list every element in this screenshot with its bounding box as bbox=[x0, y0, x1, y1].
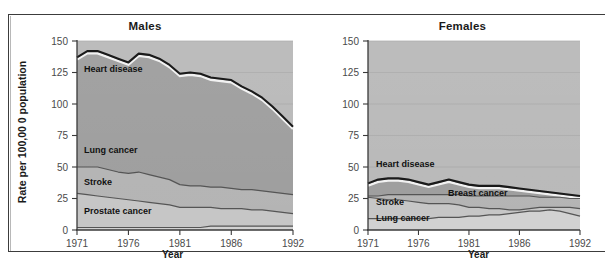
y-tick-label: 125 bbox=[51, 67, 68, 78]
x-tick-label: 1971 bbox=[357, 238, 380, 249]
y-tick-label: 50 bbox=[348, 162, 360, 173]
y-tick-label: 75 bbox=[57, 130, 69, 141]
x-axis-title-females: Year bbox=[468, 249, 489, 260]
y-tick-label: 100 bbox=[342, 99, 359, 110]
figure: Males Rate per 100,00 0 population 02550… bbox=[0, 0, 613, 264]
x-tick-label: 1981 bbox=[458, 238, 481, 249]
y-tick-label: 100 bbox=[51, 99, 68, 110]
series-label: Lung cancer bbox=[376, 213, 430, 223]
panel-females: Females 02550751001251501971197619811986… bbox=[292, 0, 613, 264]
x-axis-title-males: Year bbox=[162, 249, 183, 260]
y-tick-label: 0 bbox=[62, 225, 68, 236]
series-label: Heart disease bbox=[84, 64, 143, 74]
x-tick-label: 1986 bbox=[220, 238, 243, 249]
y-tick-label: 25 bbox=[57, 193, 69, 204]
y-tick-label: 150 bbox=[342, 36, 359, 47]
y-tick-label: 150 bbox=[51, 36, 68, 47]
series-label: Breast cancer bbox=[448, 188, 508, 198]
y-tick-label: 50 bbox=[57, 162, 69, 173]
x-tick-label: 1976 bbox=[407, 238, 430, 249]
y-tick-label: 75 bbox=[348, 130, 360, 141]
y-tick-label: 0 bbox=[353, 225, 359, 236]
series-label: Lung cancer bbox=[84, 145, 138, 155]
series-label: Stroke bbox=[84, 177, 112, 187]
x-tick-label: 1986 bbox=[508, 238, 531, 249]
x-tick-label: 1992 bbox=[569, 238, 592, 249]
x-tick-label: 1976 bbox=[117, 238, 140, 249]
x-tick-label: 1971 bbox=[66, 238, 89, 249]
series-label: Stroke bbox=[376, 197, 404, 207]
plot-area-females: 025507510012515019711976198119861992Hear… bbox=[292, 0, 613, 264]
y-tick-label: 25 bbox=[348, 193, 360, 204]
panel-males: Males Rate per 100,00 0 population 02550… bbox=[0, 0, 306, 264]
plot-area-males: 025507510012515019711976198119861992Hear… bbox=[0, 0, 306, 264]
series-label: Prostate cancer bbox=[84, 206, 152, 216]
series-label: Heart disease bbox=[376, 159, 435, 169]
y-tick-label: 125 bbox=[342, 67, 359, 78]
x-tick-label: 1981 bbox=[169, 238, 192, 249]
